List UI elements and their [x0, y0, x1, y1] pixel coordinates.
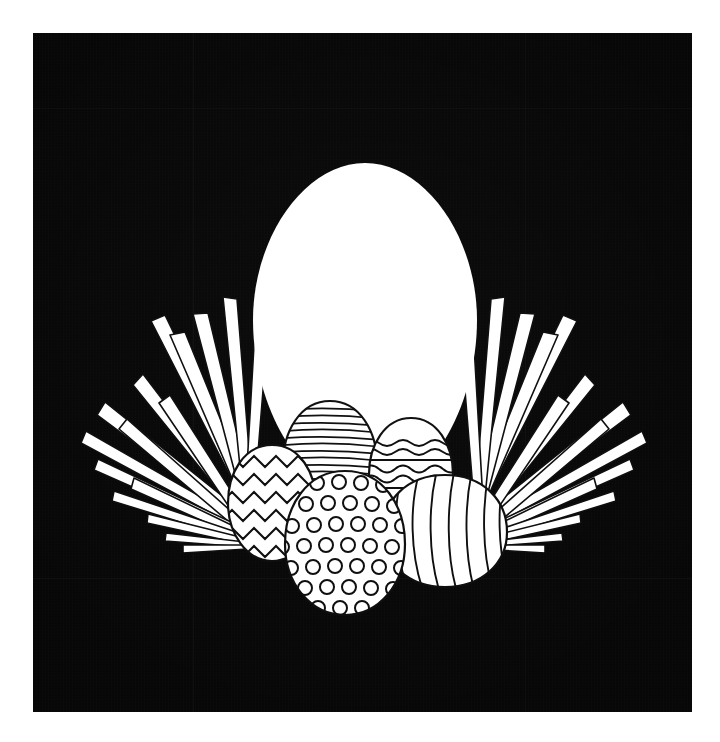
page-title: Easter egg and grass illustration on bla… [0, 21, 1, 22]
easter-egg-illustration [33, 33, 692, 712]
screenshot-canvas: Easter egg and grass illustration on bla… [0, 0, 720, 742]
black-napkin [33, 33, 692, 712]
